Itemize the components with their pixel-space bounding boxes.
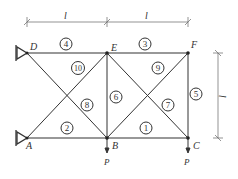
load-label-C: P	[183, 157, 190, 167]
node-label-E: E	[110, 42, 117, 53]
member-number-10: 10	[74, 64, 82, 73]
node-label-C: C	[193, 140, 200, 151]
member-number-6: 6	[114, 92, 119, 102]
member-number-8: 8	[85, 100, 90, 110]
member-number-3: 3	[143, 39, 148, 49]
member-number-4: 4	[64, 39, 69, 49]
member-number-1: 1	[144, 123, 149, 133]
node-label-B: B	[112, 140, 118, 151]
member-number-5: 5	[194, 89, 199, 99]
truss-diagram: D E F A B C 4 3 10 9 6 5 8 7 2 1 P P l l…	[0, 0, 238, 179]
dim-label-right: l	[217, 95, 228, 98]
member-number-2: 2	[65, 123, 70, 133]
dim-label-top-right: l	[145, 10, 148, 21]
load-label-B: P	[103, 157, 110, 167]
dim-label-top-left: l	[64, 10, 67, 21]
node-label-F: F	[190, 39, 198, 50]
node-label-D: D	[29, 41, 38, 52]
member-number-7: 7	[166, 100, 171, 110]
node-label-A: A	[25, 140, 33, 151]
member-number-9: 9	[156, 63, 161, 73]
